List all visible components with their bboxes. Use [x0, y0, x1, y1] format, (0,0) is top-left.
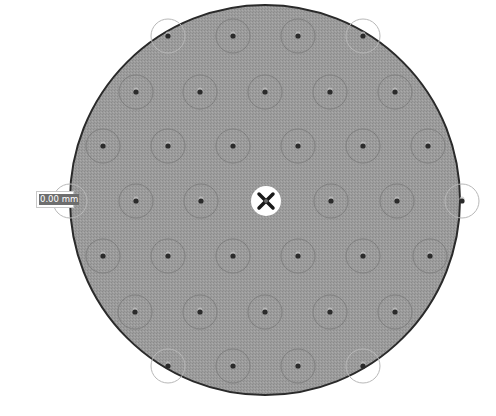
center-point: [264, 199, 268, 203]
hole-center-dot: [360, 253, 365, 258]
hole-center-dot: [230, 363, 235, 368]
hole-center-dot: [197, 89, 202, 94]
hole-center-dot: [262, 309, 267, 314]
hole-center-dot: [392, 309, 397, 314]
drawing-canvas[interactable]: [0, 0, 496, 416]
hole-center-dot: [427, 253, 432, 258]
dimension-input-value[interactable]: 0.00 mm: [39, 194, 79, 205]
hole-center-dot: [197, 309, 202, 314]
hole-center-dot: [165, 253, 170, 258]
hole-center-dot: [132, 309, 137, 314]
hole-center-dot: [165, 143, 170, 148]
hole-center-dot: [198, 198, 203, 203]
hole-center-dot: [133, 198, 138, 203]
hole-center-dot: [230, 33, 235, 38]
hole-center-dot: [425, 143, 430, 148]
hole-center-dot: [165, 33, 170, 38]
hole-center-dot: [133, 89, 138, 94]
hole-center-dot: [295, 363, 300, 368]
hole-center-dot: [295, 253, 300, 258]
hole-center-dot: [327, 309, 332, 314]
dimension-input[interactable]: 0.00 mm: [36, 191, 74, 208]
hole-center-dot: [100, 253, 105, 258]
hole-center-dot: [165, 363, 170, 368]
hole-center-dot: [459, 198, 464, 203]
hole-center-dot: [262, 89, 267, 94]
hole-center-dot: [295, 33, 300, 38]
hole-center-dot: [360, 143, 365, 148]
hole-center-dot: [230, 143, 235, 148]
hole-center-dot: [392, 89, 397, 94]
hole-center-dot: [295, 143, 300, 148]
hole-center-dot: [360, 33, 365, 38]
move-cross-icon[interactable]: [251, 186, 281, 216]
hole-center-dot: [394, 198, 399, 203]
hole-center-dot: [327, 89, 332, 94]
hole-center-dot: [328, 198, 333, 203]
hole-center-dot: [100, 143, 105, 148]
hole-center-dot: [230, 253, 235, 258]
hole-center-dot: [360, 363, 365, 368]
